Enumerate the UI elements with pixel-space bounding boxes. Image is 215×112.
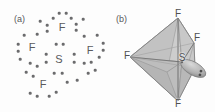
lewis-atom-f-right: F (87, 45, 94, 56)
geometry-atom-f-axial-bottom: F (175, 99, 181, 109)
electron-dot (75, 23, 78, 26)
electron-dot (62, 43, 65, 46)
electron-dot (102, 49, 105, 52)
electron-dot (61, 72, 64, 75)
lewis-center-atom-s: S (55, 54, 62, 65)
geometry-center-atom-s: S (179, 53, 186, 63)
electron-dot (17, 43, 20, 46)
electron-dot (45, 53, 48, 56)
electron-dot (45, 61, 48, 64)
electron-dot (52, 17, 55, 20)
electron-dot (29, 62, 32, 65)
electron-dot (46, 30, 49, 33)
electron-dot (46, 24, 49, 27)
electron-dot (87, 72, 90, 75)
electron-dot (48, 95, 51, 98)
electron-dot (39, 20, 42, 23)
panel-a-lewis-structure: (a) S F F F F (0, 0, 108, 112)
electron-dot (73, 61, 76, 64)
geometry-atom-f-equatorial-left: F (124, 51, 130, 61)
electron-dot (94, 69, 97, 72)
electron-dot (55, 91, 58, 94)
geometry-atom-f-axial-top: F (175, 9, 181, 19)
electron-dot (25, 71, 28, 74)
electron-dot (17, 50, 20, 53)
geometry-atom-f-equatorial-right: F (194, 33, 200, 43)
electron-dot (23, 34, 26, 37)
electron-dot (90, 61, 93, 64)
electron-dot (55, 43, 58, 46)
electron-dot (76, 79, 79, 82)
electron-dot (83, 35, 86, 38)
electron-dot (53, 72, 56, 75)
electron-dot (36, 65, 39, 68)
electron-dot (36, 33, 39, 36)
electron-dot (73, 53, 76, 56)
electron-dot (36, 95, 39, 98)
electron-dot (102, 42, 105, 45)
lewis-atom-f-left: F (29, 42, 36, 53)
panel-a-label: (a) (14, 14, 25, 24)
electron-dot (82, 18, 85, 21)
panel-b-molecular-geometry: (b) (107, 0, 215, 112)
electron-dot (66, 81, 69, 84)
electron-dot (70, 17, 73, 20)
chemistry-figure: (a) S F F F F (0, 0, 215, 112)
electron-dot (96, 34, 99, 37)
lewis-atom-f-top: F (59, 22, 66, 33)
electron-dot (98, 56, 101, 59)
electron-dot (58, 12, 61, 15)
electron-dot (83, 62, 86, 65)
electron-dot (75, 29, 78, 32)
electron-dot (19, 58, 22, 61)
electron-dot (29, 92, 32, 95)
lewis-atom-f-bottom: F (40, 79, 47, 90)
electron-dot (32, 75, 35, 78)
electron-dot (65, 12, 68, 15)
